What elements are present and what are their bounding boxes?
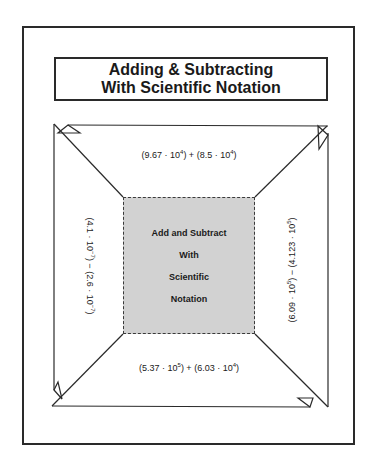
problem-left-close: ) — [85, 312, 95, 315]
problem-bottom: (5.37 · 105) + (6.03 · 104) — [124, 363, 254, 373]
center-line-3: Scientific — [169, 272, 209, 282]
fold-tab-bottom-right — [298, 398, 313, 407]
problem-top: (9.67 · 104) + (8.5 · 104) — [124, 150, 254, 160]
problem-left-b-exponent: −7 — [90, 305, 96, 312]
diagonal-bottom-right — [255, 334, 328, 407]
center-line-4: Notation — [171, 294, 208, 304]
diagonal-top-right — [255, 126, 327, 197]
problem-top-a: (9.67 · 10 — [142, 150, 181, 160]
fold-tab-bottom-left — [54, 382, 62, 399]
problem-right-b: ) − (4.123 · 10 — [287, 224, 297, 281]
center-line-2: With — [179, 250, 198, 260]
problem-right-a: (6.09 · 10 — [287, 284, 297, 323]
bottom-edge — [52, 406, 310, 407]
problem-bottom-b: ) + (6.03 · 10 — [181, 363, 233, 373]
problem-top-b: ) + (8.5 · 10 — [183, 150, 230, 160]
center-square: Add and Subtract With Scientific Notatio… — [123, 197, 255, 334]
diagonal-bottom-left — [52, 334, 123, 406]
problem-bottom-close: ) — [236, 363, 239, 373]
problem-top-close: ) — [234, 150, 237, 160]
problem-right-b-exponent: 5 — [286, 220, 292, 223]
problem-right-a-exponent: 5 — [286, 281, 292, 284]
problem-left: (4.1 · 10−7) − (2.6 · 10−7) — [85, 218, 95, 315]
problem-right-close: ) — [287, 217, 297, 220]
center-line-1: Add and Subtract — [151, 228, 226, 238]
problem-right: (6.09 · 105) − (4.123 · 105) — [287, 217, 297, 322]
problem-left-b: ) − (2.6 · 10 — [85, 258, 95, 305]
top-edge — [68, 125, 328, 126]
diagonal-top-left — [54, 124, 123, 197]
problem-bottom-a: (5.37 · 10 — [139, 363, 178, 373]
problem-left-a: (4.1 · 10 — [85, 218, 95, 252]
